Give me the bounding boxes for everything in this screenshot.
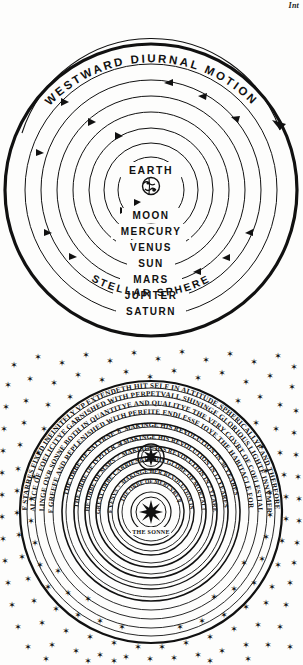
svg-text:✶: ✶ [286, 578, 294, 588]
svg-text:✶: ✶ [134, 642, 142, 652]
svg-text:✶: ✶ [0, 468, 6, 478]
svg-text:✶: ✶ [24, 574, 32, 584]
svg-text:✶: ✶ [0, 534, 7, 544]
svg-text:✶: ✶ [0, 446, 7, 456]
svg-text:✶: ✶ [42, 654, 50, 664]
svg-text:✶: ✶ [74, 370, 82, 380]
svg-text:✶: ✶ [292, 406, 300, 416]
svg-text:✶: ✶ [206, 632, 214, 642]
svg-text:✶: ✶ [242, 602, 250, 612]
svg-text:✶: ✶ [30, 596, 38, 606]
svg-text:✶: ✶ [106, 356, 114, 366]
svg-text:✶: ✶ [27, 516, 35, 526]
svg-text:✶: ✶ [38, 618, 46, 628]
svg-text:✶: ✶ [158, 642, 166, 652]
svg-text:✶: ✶ [0, 424, 8, 434]
svg-text:✶: ✶ [295, 494, 303, 504]
svg-text:✶: ✶ [110, 638, 118, 648]
svg-text:✶: ✶ [8, 600, 16, 610]
svg-text:✶: ✶ [256, 392, 264, 402]
svg-text:✶: ✶ [276, 622, 284, 632]
sun-icon [136, 497, 166, 527]
svg-text:✶: ✶ [280, 470, 288, 480]
svg-text:✶: ✶ [44, 582, 52, 592]
svg-text:✶: ✶ [16, 440, 24, 450]
globe-icon [143, 178, 160, 195]
svg-text:✶: ✶ [290, 428, 298, 438]
svg-text:✶: ✶ [244, 654, 252, 664]
svg-text:✶: ✶ [1, 556, 9, 566]
svg-text:✶: ✶ [230, 624, 238, 634]
svg-text:✶: ✶ [274, 351, 282, 361]
ptolemaic-geocentric-diagram: WESTWARD DIURNAL MOTION [0, 8, 303, 342]
svg-text:✶: ✶ [82, 350, 90, 360]
svg-text:✶: ✶ [288, 382, 296, 392]
svg-text:✶: ✶ [182, 638, 190, 648]
svg-text:✶: ✶ [264, 640, 272, 650]
label-sun: SUN [138, 258, 164, 269]
svg-text:✶: ✶ [18, 552, 26, 562]
svg-text:✶: ✶ [58, 358, 66, 368]
svg-text:✶: ✶ [294, 472, 302, 482]
digges-svg: ✶✶✶ ✶✶✶ ✶✶✶ ✶✶✶ ✶ ✶✶✶ ✶✶✶ ✶✶✶ ✶✶✶ ✶ ✶✶✶ … [0, 344, 303, 665]
svg-text:✶: ✶ [266, 371, 274, 381]
svg-text:✶: ✶ [0, 490, 6, 500]
svg-text:✶: ✶ [122, 652, 130, 662]
svg-text:✶: ✶ [278, 536, 286, 546]
svg-text:✶: ✶ [10, 360, 18, 370]
label-venus: VENUS [130, 242, 172, 253]
svg-text:✶: ✶ [146, 372, 154, 382]
svg-text:✶: ✶ [226, 349, 234, 359]
svg-text:✶: ✶ [130, 348, 138, 358]
ptolemaic-svg: WESTWARD DIURNAL MOTION [0, 8, 303, 342]
svg-text:✶: ✶ [250, 357, 258, 367]
svg-text:✶: ✶ [13, 508, 21, 518]
sphere-mars [57, 96, 245, 284]
svg-text:✶: ✶ [110, 656, 118, 665]
svg-text:✶: ✶ [276, 400, 284, 410]
svg-text:✶: ✶ [34, 352, 42, 362]
svg-text:✶: ✶ [72, 646, 80, 656]
svg-text:✶: ✶ [14, 622, 22, 632]
svg-text:✶: ✶ [54, 566, 62, 576]
svg-text:✶: ✶ [4, 578, 12, 588]
svg-text:✶: ✶ [96, 650, 104, 660]
svg-text:✶: ✶ [48, 640, 56, 650]
svg-text:✶: ✶ [220, 610, 228, 620]
label-saturn: SATURN [126, 306, 176, 317]
svg-text:✶: ✶ [62, 626, 70, 636]
svg-text:✶: ✶ [0, 512, 6, 522]
svg-text:✶: ✶ [40, 424, 48, 434]
svg-text:✶: ✶ [293, 538, 301, 548]
svg-text:✶: ✶ [276, 448, 284, 458]
svg-text:✶: ✶ [274, 560, 282, 570]
label-earth: EARTH [129, 164, 173, 176]
svg-text:✶: ✶ [84, 656, 92, 665]
svg-text:✶: ✶ [292, 450, 300, 460]
svg-text:✶: ✶ [252, 418, 260, 428]
ring-text-mercury: THE ORBE OF MERCVRY ☿ [119, 478, 183, 503]
svg-text:✶: ✶ [14, 464, 22, 474]
svg-text:✶: ✶ [24, 642, 32, 652]
svg-text:✶: ✶ [282, 492, 290, 502]
label-mercury: MERCURY [121, 226, 182, 237]
svg-text:✶: ✶ [170, 653, 178, 663]
svg-text:✶: ✶ [98, 375, 106, 385]
label-the-sonne: THE SONNE [132, 529, 170, 535]
svg-text:✶: ✶ [295, 516, 303, 526]
svg-text:✶: ✶ [262, 598, 270, 608]
svg-text:✶: ✶ [282, 600, 290, 610]
svg-text:✶: ✶ [290, 558, 298, 568]
svg-text:✶: ✶ [234, 396, 242, 406]
svg-text:✶: ✶ [44, 400, 52, 410]
svg-text:✶: ✶ [52, 604, 60, 614]
earth-globe-marker [138, 444, 164, 470]
svg-text:✶: ✶ [20, 418, 28, 428]
svg-text:✶: ✶ [178, 347, 186, 357]
svg-text:✶: ✶ [242, 640, 250, 650]
label-mars: MARS [133, 274, 168, 285]
svg-text:✶: ✶ [146, 654, 154, 664]
svg-text:✶: ✶ [254, 620, 262, 630]
svg-text:✶: ✶ [170, 366, 178, 376]
illustration-page: Int WESTWARD DIURNAL MOTION [0, 0, 303, 665]
